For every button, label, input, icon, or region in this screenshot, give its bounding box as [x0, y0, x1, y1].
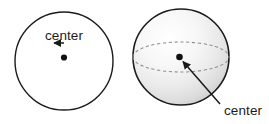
geometry-diagram: center center — [0, 0, 269, 124]
sphere-center-label: center — [224, 103, 263, 118]
circle-center-label: center — [45, 28, 84, 43]
circle-figure-group: center — [15, 12, 113, 110]
circle-outline — [15, 12, 113, 110]
figure-container: center center — [0, 0, 269, 124]
circle-center-dot — [61, 54, 67, 60]
sphere-center-dot — [176, 54, 183, 61]
sphere-figure-group: center — [133, 9, 263, 118]
